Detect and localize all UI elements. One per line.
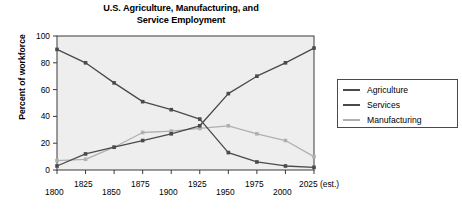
legend-swatch-services bbox=[343, 104, 360, 106]
x-tick-label: 1875 bbox=[131, 180, 150, 189]
x-tick-label: 1850 bbox=[102, 188, 121, 197]
legend-item-manufacturing[interactable]: Manufacturing bbox=[343, 113, 421, 127]
x-tick-label: 1800 bbox=[45, 188, 64, 197]
x-tick-label: 1975 bbox=[245, 180, 264, 189]
chart-figure: U.S. Agriculture, Manufacturing, and Ser… bbox=[0, 0, 462, 214]
x-tick-label: 1925 bbox=[188, 180, 207, 189]
legend-label: Agriculture bbox=[367, 86, 408, 95]
x-tick-label: 2000 bbox=[273, 188, 292, 197]
legend-item-services[interactable]: Services bbox=[343, 98, 400, 112]
legend-swatch-manufacturing bbox=[343, 119, 360, 121]
x-tick-label: 2025 (est.) bbox=[299, 180, 339, 189]
legend-label: Manufacturing bbox=[367, 116, 421, 125]
x-tick-label: 1950 bbox=[216, 188, 235, 197]
legend-swatch-agriculture bbox=[343, 89, 360, 91]
x-tick-label: 1825 bbox=[74, 180, 93, 189]
chart-legend: Agriculture Services Manufacturing bbox=[337, 79, 458, 128]
legend-label: Services bbox=[367, 101, 400, 110]
legend-item-agriculture[interactable]: Agriculture bbox=[343, 83, 408, 97]
x-tick-label: 1900 bbox=[159, 188, 178, 197]
